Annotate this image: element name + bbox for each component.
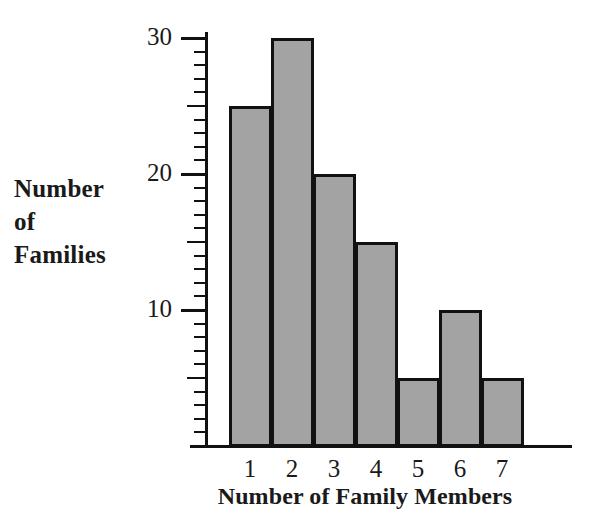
y-axis-minor-tick [194, 78, 205, 80]
bar [313, 174, 356, 447]
y-axis-major-tick [181, 309, 205, 312]
y-axis-minor-tick [194, 146, 205, 148]
histogram-chart: Number of Families 102030 1234567 Number… [0, 0, 594, 517]
y-axis-minor-tick [194, 51, 205, 53]
y-axis-minor-tick [187, 105, 205, 107]
y-axis-minor-tick [194, 64, 205, 66]
y-axis-minor-tick [194, 255, 205, 257]
y-axis-minor-tick [194, 350, 205, 352]
x-axis-tick-label: 6 [438, 455, 482, 483]
y-axis-minor-tick [194, 391, 205, 393]
y-axis-minor-tick [194, 268, 205, 270]
y-axis-minor-tick [194, 132, 205, 134]
x-axis-title: Number of Family Members [150, 483, 580, 510]
y-axis-minor-tick [194, 214, 205, 216]
x-axis-tick-label: 5 [396, 455, 440, 483]
y-axis-minor-tick [194, 119, 205, 121]
x-axis-tick-label: 2 [270, 455, 314, 483]
bar [229, 106, 272, 447]
y-axis-minor-tick [194, 336, 205, 338]
y-axis-minor-tick [194, 431, 205, 433]
y-axis-minor-tick [194, 418, 205, 420]
x-axis-tick-label: 4 [354, 455, 398, 483]
y-axis-major-tick [181, 37, 205, 40]
y-axis-minor-tick [194, 159, 205, 161]
x-axis-tick-label: 1 [228, 455, 272, 483]
y-axis-minor-tick [194, 363, 205, 365]
plot-area: 102030 1234567 [0, 0, 594, 517]
y-axis-minor-tick [187, 241, 205, 243]
x-axis-tick-label: 3 [312, 455, 356, 483]
bar [439, 310, 482, 447]
y-axis-line [205, 32, 208, 447]
y-axis-minor-tick [194, 227, 205, 229]
y-axis-minor-tick [194, 282, 205, 284]
y-axis-tick-label: 30 [112, 24, 172, 49]
y-axis-minor-tick [194, 91, 205, 93]
y-axis-tick-label: 20 [112, 160, 172, 185]
y-axis-minor-tick [194, 187, 205, 189]
y-axis-minor-tick [194, 200, 205, 202]
y-axis-minor-tick [194, 295, 205, 297]
y-axis-minor-tick [194, 323, 205, 325]
bar [355, 242, 398, 447]
y-axis-minor-tick [194, 404, 205, 406]
bar [271, 38, 314, 447]
bar [481, 378, 524, 447]
y-axis-minor-tick [187, 377, 205, 379]
bar [397, 378, 440, 447]
y-axis-tick-label: 10 [112, 296, 172, 321]
y-axis-major-tick [181, 173, 205, 176]
x-axis-tick-label: 7 [480, 455, 524, 483]
